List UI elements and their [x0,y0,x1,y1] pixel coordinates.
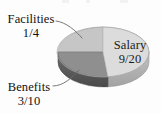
chart-stage: Facilities 1/4 Benefits 3/10 Salary 9/20 [0,0,161,113]
benefits-label-fraction: 3/10 [1,94,57,108]
facilities-label: Facilities 1/4 [3,12,59,40]
salary-label: Salary 9/20 [108,38,152,66]
benefits-label: Benefits 3/10 [1,80,57,108]
salary-label-fraction: 9/20 [108,52,152,66]
pie-chart-figure: Facilities 1/4 Benefits 3/10 Salary 9/20 [0,0,161,113]
facilities-slice [58,27,103,52]
facilities-label-name: Facilities [3,12,59,26]
benefits-label-name: Benefits [1,80,57,94]
salary-label-name: Salary [108,38,152,52]
facilities-label-fraction: 1/4 [3,26,59,40]
